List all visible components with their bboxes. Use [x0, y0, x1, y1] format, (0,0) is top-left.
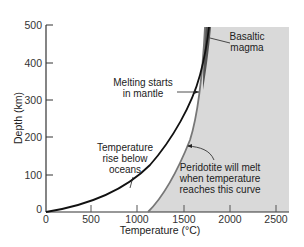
- x-axis-title: Temperature (°C): [120, 224, 201, 236]
- svg-text:reaches this curve: reaches this curve: [179, 184, 261, 195]
- annotation-melting-starts: Melting starts in mantle: [113, 77, 199, 99]
- svg-text:Basaltic: Basaltic: [229, 31, 264, 42]
- svg-text:500: 500: [24, 19, 42, 31]
- chart: 500 400 300 200 100 0 0 500 1000 1500 20…: [0, 0, 304, 247]
- y-ticks: [46, 25, 53, 175]
- svg-text:2000: 2000: [218, 213, 242, 225]
- svg-text:300: 300: [24, 94, 42, 106]
- svg-text:in mantle: in mantle: [123, 88, 164, 99]
- svg-text:400: 400: [24, 57, 42, 69]
- svg-text:rise below: rise below: [102, 153, 148, 164]
- y-tick-labels: 500 400 300 200 100 0: [24, 19, 42, 215]
- svg-text:0: 0: [43, 213, 49, 225]
- svg-text:500: 500: [82, 213, 100, 225]
- y-axis-title: Depth (km): [12, 92, 24, 144]
- svg-text:when temperature: when temperature: [179, 173, 261, 184]
- annotation-temperature-rise: Temperature rise below oceans: [97, 142, 154, 188]
- svg-text:Temperature: Temperature: [97, 142, 154, 153]
- svg-text:200: 200: [24, 131, 42, 143]
- svg-text:2500: 2500: [264, 213, 288, 225]
- svg-text:Melting starts: Melting starts: [113, 77, 172, 88]
- svg-text:100: 100: [24, 169, 42, 181]
- svg-text:0: 0: [36, 203, 42, 215]
- svg-text:Peridotite will melt: Peridotite will melt: [180, 162, 261, 173]
- svg-text:oceans: oceans: [109, 164, 141, 175]
- svg-text:magma: magma: [230, 42, 264, 53]
